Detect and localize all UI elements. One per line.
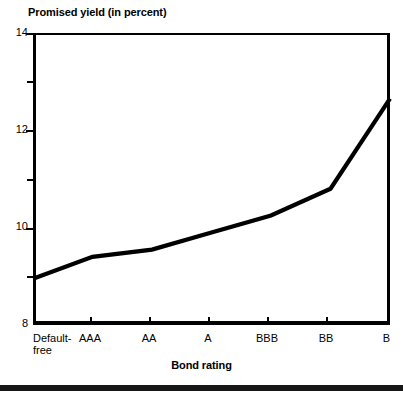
y-axis-tick-label: 10 (16, 221, 28, 232)
bond-yield-chart: Promised yield (in percent) 14 12 10 8 D… (0, 0, 403, 410)
x-axis-tick-label-b: B (330, 332, 390, 344)
y-axis-tick-label: 8 (22, 318, 28, 329)
x-axis-tick-label-aaa: AAA (60, 332, 120, 344)
x-axis-tick-label-a: A (178, 332, 238, 344)
x-axis-tick-label-bbb: BBB (237, 332, 297, 344)
data-line-series (33, 33, 390, 325)
x-axis-title: Bond rating (0, 359, 403, 371)
x-axis-tick-label-aa: AA (119, 332, 179, 344)
promised-yield-line (33, 99, 390, 279)
bottom-divider (0, 385, 403, 391)
chart-title: Promised yield (in percent) (28, 6, 167, 18)
y-tick-10 (26, 228, 33, 230)
plot-area (33, 33, 390, 325)
y-tick-12 (26, 130, 33, 132)
y-tick-14 (26, 33, 33, 35)
